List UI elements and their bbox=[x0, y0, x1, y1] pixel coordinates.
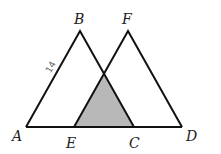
label-D: D bbox=[185, 128, 197, 144]
label-C: C bbox=[129, 135, 140, 151]
geometry-figure: B F A E C D 14 bbox=[0, 0, 221, 154]
shaded-overlap-region bbox=[74, 75, 134, 127]
diagram-canvas: B F A E C D 14 bbox=[0, 0, 221, 154]
label-B: B bbox=[73, 11, 84, 27]
label-A: A bbox=[10, 128, 22, 144]
label-F: F bbox=[121, 11, 133, 27]
label-E: E bbox=[65, 135, 76, 151]
